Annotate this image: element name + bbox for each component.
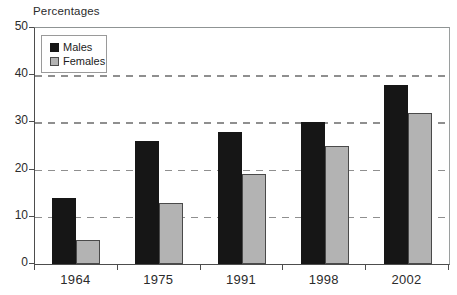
bar-males-1991 [218, 132, 242, 264]
y-tick-label-30: 30 [0, 113, 28, 128]
y-tick-label-20: 20 [0, 161, 28, 176]
x-tick-5 [448, 264, 449, 270]
bar-males-1975 [135, 141, 159, 264]
bar-females-1975 [159, 203, 183, 264]
legend-label-females: Females [63, 56, 105, 67]
y-tick-label-50: 50 [0, 19, 28, 34]
x-label-1964: 1964 [34, 272, 117, 287]
x-tick-1 [117, 264, 118, 270]
y-axis-unit-label: Percentages [33, 5, 100, 17]
bar-chart: Percentages Males Females 01020304050196… [0, 0, 457, 295]
legend-item-females: Females [50, 56, 106, 67]
x-tick-4 [365, 264, 366, 270]
legend-label-males: Males [63, 42, 92, 53]
bar-males-1998 [301, 122, 325, 264]
gridline-40 [35, 75, 449, 77]
x-label-1998: 1998 [282, 272, 365, 287]
males-swatch [50, 43, 59, 52]
y-tick-label-40: 40 [0, 66, 28, 81]
y-tick-40 [29, 74, 34, 75]
legend-item-males: Males [50, 42, 106, 53]
x-tick-2 [200, 264, 201, 270]
bar-females-1991 [242, 174, 266, 264]
x-label-2002: 2002 [365, 272, 448, 287]
y-tick-50 [29, 27, 34, 28]
legend: Males Females [41, 35, 107, 73]
y-tick-20 [29, 169, 34, 170]
x-label-1975: 1975 [117, 272, 200, 287]
y-tick-10 [29, 216, 34, 217]
females-swatch [50, 57, 59, 66]
y-tick-label-10: 10 [0, 208, 28, 223]
bar-males-2002 [384, 85, 408, 264]
bar-males-1964 [52, 198, 76, 264]
x-tick-3 [282, 264, 283, 270]
y-tick-30 [29, 121, 34, 122]
bar-females-2002 [408, 113, 432, 264]
bar-females-1998 [325, 146, 349, 264]
bar-females-1964 [76, 240, 100, 264]
x-tick-0 [34, 264, 35, 270]
y-tick-label-0: 0 [0, 255, 28, 270]
x-label-1991: 1991 [200, 272, 283, 287]
